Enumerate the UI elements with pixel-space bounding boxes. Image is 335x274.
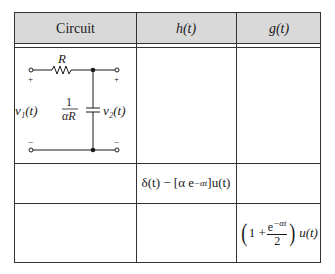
terminal-in-plus-icon (29, 68, 33, 72)
capacitor-label-numerator: 1 (66, 95, 72, 109)
rc-circuit-diagram: R + + − − v₁(t) v₂(t) 1 αR (0, 0, 335, 274)
output-voltage-label: v₂(t) (103, 103, 126, 118)
capacitor-label-denominator: αR (62, 109, 76, 123)
minus-sign-out: − (114, 137, 119, 147)
resistor-icon (52, 66, 71, 74)
input-voltage-label: v₁(t) (15, 103, 38, 118)
terminal-out-minus-icon (115, 148, 119, 152)
node-bottom-icon (91, 148, 96, 153)
plus-sign-in: + (28, 74, 33, 84)
minus-sign-in: − (28, 137, 33, 147)
plus-sign-out: + (114, 74, 119, 84)
resistor-label: R (57, 51, 66, 66)
node-top-icon (91, 68, 96, 73)
terminal-out-plus-icon (115, 68, 119, 72)
terminal-in-minus-icon (29, 148, 33, 152)
